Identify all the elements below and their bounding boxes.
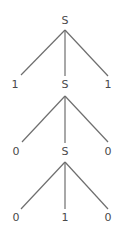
node-left-1: 1: [12, 78, 19, 91]
tree-nodes: S 1 S 1 0 S 0 0 1 0: [12, 14, 112, 224]
edge-s2-to-right-0: [65, 96, 108, 142]
parse-tree-diagram: S 1 S 1 0 S 0 0 1 0: [0, 0, 119, 238]
node-inner-s: S: [62, 145, 69, 158]
node-root-s: S: [62, 14, 69, 27]
edge-root-to-right-1: [65, 30, 108, 76]
node-right-1: 1: [105, 78, 112, 91]
node-bottom-left-0: 0: [13, 211, 20, 224]
node-bottom-right-0: 0: [105, 211, 112, 224]
tree-edges: [21, 30, 108, 209]
edge-s2-to-left-0: [22, 96, 65, 142]
edge-s3-to-right-0: [65, 162, 108, 209]
node-bottom-middle-1: 1: [62, 211, 69, 224]
node-middle-s: S: [62, 78, 69, 91]
edge-root-to-left-1: [21, 30, 65, 75]
node-right-0: 0: [105, 145, 112, 158]
node-left-0: 0: [13, 145, 20, 158]
edge-s3-to-left-0: [21, 162, 65, 209]
